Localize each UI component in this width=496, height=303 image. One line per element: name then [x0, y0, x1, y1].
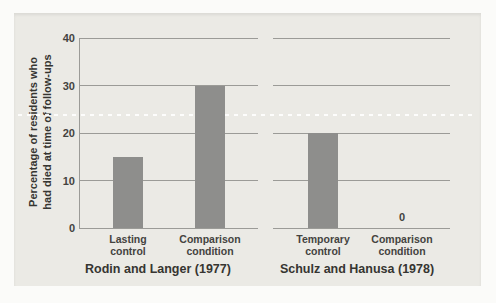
bar-value-label-comparison-condition: 0 [392, 211, 412, 223]
y-axis-tick-label: 10 [45, 174, 75, 188]
gridline-10-panel-1 [79, 180, 258, 181]
panel-title-2: Schulz and Hanusa (1978) [280, 262, 434, 276]
gridline-0-panel-1 [79, 228, 258, 229]
gridline-30-panel-2 [273, 85, 450, 86]
y-axis-tick-label: 0 [45, 221, 75, 235]
x-category-label-comparison-condition: Comparisoncondition [162, 234, 258, 257]
bar-lasting-control [113, 157, 143, 228]
x-category-label-line: Comparison [354, 234, 450, 246]
gridline-0-panel-2 [273, 228, 450, 229]
gridline-20-panel-1 [79, 133, 258, 134]
bar-temporary-control [308, 133, 338, 228]
y-axis-tick-label: 20 [45, 126, 75, 140]
y-axis-tick-label: 30 [45, 79, 75, 93]
y-axis-line [79, 38, 80, 229]
x-category-label-line: condition [162, 246, 258, 258]
gridline-10-panel-2 [273, 180, 450, 181]
x-category-label-line: condition [354, 246, 450, 258]
gridline-40-panel-1 [79, 38, 258, 39]
x-category-label-line: Comparison [162, 234, 258, 246]
figure-page: Percentage of residents who had died at … [0, 0, 496, 303]
bar-chart-figure: Percentage of residents who had died at … [14, 13, 481, 286]
gridline-40-panel-2 [273, 38, 450, 39]
gridline-30-panel-1 [79, 85, 258, 86]
x-category-label-comparison-condition: Comparisoncondition [354, 234, 450, 257]
gridline-20-panel-2 [273, 133, 450, 134]
y-axis-title-line-1: Percentage of residents who [27, 22, 41, 242]
y-axis-tick-label: 40 [45, 31, 75, 45]
panel-title-1: Rodin and Langer (1977) [85, 262, 231, 276]
bar-comparison-condition [195, 86, 225, 229]
dashed-reference-line [18, 114, 477, 116]
